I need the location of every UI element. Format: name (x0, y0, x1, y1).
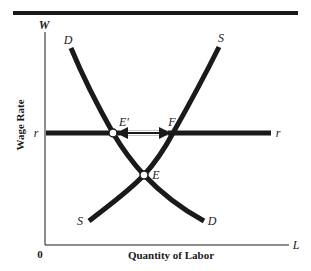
wage-floor-label-right: r (276, 126, 281, 140)
labor-market-diagram: W L 0 Wage Rate Quantity of Labor r r D … (0, 0, 311, 271)
point-e-prime-label: E′ (118, 115, 129, 129)
point-e (140, 171, 148, 179)
x-axis-symbol: L (292, 238, 300, 252)
supply-label-bottom: S (77, 214, 83, 228)
x-axis-label: Quantity of Labor (128, 249, 214, 261)
origin-label: 0 (37, 248, 43, 260)
point-e-label: E (151, 168, 160, 182)
y-axis-symbol: W (39, 18, 51, 32)
wage-floor-label-left: r (34, 126, 39, 140)
y-axis-label: Wage Rate (14, 99, 26, 150)
demand-label-top: D (63, 33, 73, 47)
demand-label-bottom: D (207, 214, 217, 228)
point-f-label: F (167, 115, 176, 129)
supply-label-top: S (218, 31, 224, 45)
point-e-prime (109, 129, 117, 137)
